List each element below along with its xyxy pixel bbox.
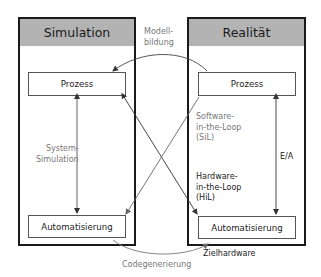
reality-header: Realität bbox=[189, 19, 304, 46]
simulation-panel: Simulation bbox=[18, 17, 136, 246]
simulation-automation-box: Automatisierung bbox=[28, 215, 126, 238]
reality-automation-box: Automatisierung bbox=[198, 216, 296, 239]
zielhardware-label: Zielhardware bbox=[203, 249, 256, 260]
sil-label: Software- in-the-Loop (SiL) bbox=[196, 112, 241, 144]
codegenerierung-label: Codegenerierung bbox=[122, 260, 191, 271]
reality-process-box: Prozess bbox=[198, 72, 296, 96]
simulation-process-box: Prozess bbox=[28, 72, 126, 96]
system-simulation-label: System- Simulation bbox=[36, 144, 79, 165]
modellbildung-label: Modell- bildung bbox=[144, 27, 174, 48]
simulation-header: Simulation bbox=[20, 19, 134, 46]
ea-label: E/A bbox=[280, 152, 293, 163]
hil-label: Hardware- in-the-Loop (HiL) bbox=[196, 172, 241, 204]
